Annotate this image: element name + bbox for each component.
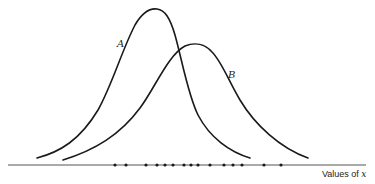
observation-point xyxy=(144,163,147,166)
curve-a xyxy=(37,9,250,158)
observation-point xyxy=(279,163,282,166)
observation-point xyxy=(222,163,225,166)
x-axis-variable: x xyxy=(361,169,366,179)
curve-b xyxy=(63,44,308,160)
observation-point xyxy=(171,163,174,166)
observation-point xyxy=(163,163,166,166)
observation-point xyxy=(240,163,243,166)
observation-point xyxy=(196,163,199,166)
x-axis-label-text: Values of xyxy=(322,169,361,179)
label-b: B xyxy=(227,69,235,80)
label-a: A xyxy=(116,38,124,49)
observation-point xyxy=(113,163,116,166)
distribution-diagram: A B xyxy=(0,0,375,184)
observation-point xyxy=(182,163,185,166)
observation-point xyxy=(189,163,192,166)
observation-point xyxy=(262,163,265,166)
observation-point xyxy=(208,163,211,166)
observation-point xyxy=(231,163,234,166)
x-axis-label: Values of x xyxy=(322,169,366,179)
observation-point xyxy=(124,163,127,166)
observation-point xyxy=(155,163,158,166)
